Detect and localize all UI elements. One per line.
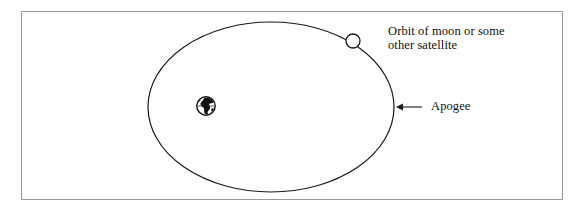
- apogee-label: Apogee: [431, 99, 470, 113]
- orbit-diagram-figure: Orbit of moon or some other satellite Ap…: [0, 0, 586, 218]
- apogee-arrow: [396, 104, 422, 111]
- satellite-circle-icon: [346, 34, 360, 48]
- orbit-ellipse: [148, 22, 394, 192]
- orbit-label: Orbit of moon or some other satellite: [388, 24, 505, 52]
- earth-globe-icon: [197, 97, 215, 115]
